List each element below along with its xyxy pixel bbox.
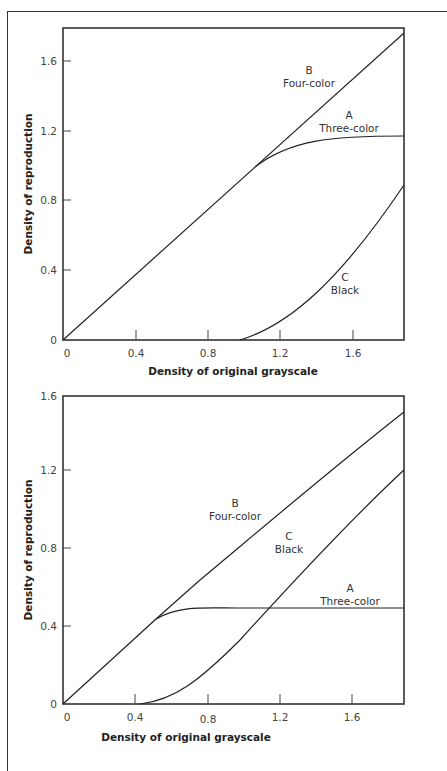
bottom-xtick-1: 0.4: [127, 711, 144, 723]
bottom-y-axis-title: Density of reproduction: [22, 480, 34, 621]
bottom-xtick-2: 0.8: [200, 713, 217, 725]
bottom-ytick-2: 0.8: [40, 542, 57, 554]
top-ytick-4: 1.6: [40, 55, 57, 67]
bottom-x-axis-title: Density of original grayscale: [101, 731, 271, 743]
top-xtick-3: 1.2: [272, 347, 289, 359]
top-label-A-letter: A: [345, 109, 353, 121]
bottom-ytick-4: 1.6: [40, 390, 57, 402]
top-xtick-0: 0: [64, 347, 71, 359]
bottom-ytick-3: 1.2: [40, 464, 57, 476]
bottom-chart: 0 0.4 0.8 1.2 1.6 0 0.4 0.8 1.2 1.6 Dens…: [22, 390, 404, 743]
top-label-A-name: Three-color: [318, 122, 379, 134]
bottom-xtick-3: 1.2: [272, 711, 289, 723]
top-label-C-letter: C: [341, 271, 348, 283]
top-ytick-1: 0.4: [40, 264, 57, 276]
top-label-C-name: Black: [331, 284, 360, 296]
top-curve-A-three-color: [255, 136, 404, 167]
bottom-y-ticks: [63, 470, 71, 626]
bottom-curve-C-black: [140, 470, 404, 704]
bottom-label-C-name: Black: [275, 543, 304, 555]
top-label-B-name: Four-color: [283, 77, 336, 89]
bottom-label-C-letter: C: [285, 530, 292, 542]
bottom-label-A-name: Three-color: [319, 595, 380, 607]
bottom-ytick-0: 0: [50, 698, 57, 710]
top-curve-C-black: [240, 185, 404, 340]
bottom-ytick-1: 0.4: [40, 620, 57, 632]
bottom-x-ticks: [135, 694, 352, 704]
top-ytick-0: 0: [50, 334, 57, 346]
top-xtick-4: 1.6: [345, 347, 362, 359]
bottom-xtick-4: 1.6: [344, 711, 361, 723]
top-y-axis-title: Density of reproduction: [22, 114, 34, 255]
top-xtick-1: 0.4: [128, 347, 145, 359]
top-ytick-3: 1.2: [40, 125, 57, 137]
top-chart: 0 0.4 0.8 1.2 1.6 0 0.4 0.8 1.2 1.6 Dens…: [22, 28, 404, 377]
top-ytick-2: 0.8: [40, 194, 57, 206]
bottom-curve-A-three-color: [156, 608, 404, 619]
bottom-label-A-letter: A: [346, 582, 354, 594]
top-x-axis-title: Density of original grayscale: [148, 365, 318, 377]
top-y-ticks: [63, 61, 71, 270]
top-xtick-2: 0.8: [200, 347, 217, 359]
bottom-xtick-0: 0: [64, 711, 71, 723]
bottom-curve-B-four-color: [63, 412, 404, 704]
top-label-B-letter: B: [305, 64, 312, 76]
bottom-label-B-name: Four-color: [209, 510, 262, 522]
bottom-label-B-letter: B: [231, 497, 238, 509]
